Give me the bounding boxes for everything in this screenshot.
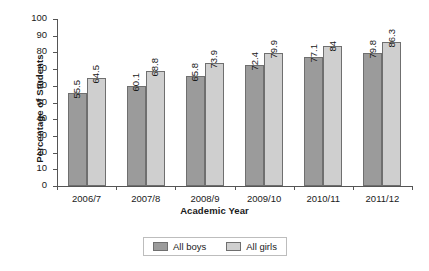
x-axis-tick — [412, 186, 413, 190]
x-axis-title: Academic Year — [0, 205, 429, 216]
bar-value-label: 86.3 — [386, 29, 396, 48]
bar — [146, 71, 165, 186]
x-axis-tick — [235, 186, 236, 190]
bar-value-label: 64.5 — [91, 65, 101, 84]
y-axis-tick: 30 — [53, 136, 57, 137]
x-axis-tick — [116, 186, 117, 190]
legend-swatch-icon — [153, 242, 168, 251]
legend-swatch-icon — [226, 242, 241, 251]
bar-value-label: 77.1 — [308, 44, 318, 63]
x-axis-tick — [353, 186, 354, 190]
y-axis-tick-label: 70 — [23, 62, 47, 73]
bar — [186, 76, 205, 186]
x-axis-tick — [57, 186, 58, 190]
y-axis-tick: 50 — [53, 103, 57, 104]
bar — [304, 57, 323, 186]
bar — [127, 86, 146, 186]
x-axis-tick — [294, 186, 295, 190]
bar-value-label: 68.8 — [150, 58, 160, 77]
x-axis-tick-label: 2006/7 — [57, 193, 116, 204]
y-axis-tick: 100 — [53, 19, 57, 20]
bar-value-label: 84 — [327, 41, 337, 52]
x-axis-tick-label: 2008/9 — [175, 193, 234, 204]
bar — [264, 53, 283, 186]
y-axis-tick-label: 30 — [23, 129, 47, 140]
y-axis-tick: 10 — [53, 169, 57, 170]
bar-chart: Percentage of Students 01020304050607080… — [0, 0, 429, 271]
bar — [323, 46, 342, 186]
y-axis-tick: 40 — [53, 119, 57, 120]
x-axis-tick-label: 2007/8 — [116, 193, 175, 204]
y-axis-tick-label: 20 — [23, 146, 47, 157]
legend-item-label: All girls — [246, 241, 277, 252]
bar — [68, 93, 87, 186]
y-axis-tick: 90 — [53, 36, 57, 37]
y-axis-tick-label: 100 — [23, 12, 47, 23]
x-axis-tick-label: 2010/11 — [294, 193, 353, 204]
bar — [205, 63, 224, 186]
y-axis-tick-label: 40 — [23, 112, 47, 123]
bar-value-label: 55.5 — [72, 80, 82, 99]
y-axis-tick: 20 — [53, 153, 57, 154]
y-axis-tick-label: 10 — [23, 162, 47, 173]
bar — [245, 65, 264, 186]
y-axis-tick-label: 0 — [23, 179, 47, 190]
bar-value-label: 60.1 — [131, 73, 141, 92]
bar-value-label: 73.9 — [209, 50, 219, 69]
bar — [87, 78, 106, 186]
bar-value-label: 72.4 — [249, 52, 259, 71]
x-axis-tick-label: 2011/12 — [353, 193, 412, 204]
y-axis-line — [57, 19, 58, 187]
y-axis-tick: 70 — [53, 69, 57, 70]
chart-legend: All boysAll girls — [143, 237, 287, 256]
y-axis-tick-label: 50 — [23, 96, 47, 107]
x-axis-tick — [175, 186, 176, 190]
y-axis-tick: 60 — [53, 86, 57, 87]
bar — [363, 53, 382, 186]
legend-item-label: All boys — [173, 241, 206, 252]
y-axis-tick-label: 90 — [23, 29, 47, 40]
legend-item: All boys — [153, 241, 206, 252]
bar — [382, 42, 401, 186]
y-axis-tick-label: 80 — [23, 45, 47, 56]
bar-value-label: 65.8 — [190, 63, 200, 82]
x-axis-tick-label: 2009/10 — [235, 193, 294, 204]
bar-value-label: 79.9 — [268, 40, 278, 59]
plot-area: 010203040506070809010055.564.52006/760.1… — [57, 19, 412, 186]
y-axis-tick-label: 60 — [23, 79, 47, 90]
y-axis-tick: 80 — [53, 52, 57, 53]
legend-item: All girls — [226, 241, 277, 252]
bar-value-label: 79.8 — [367, 40, 377, 59]
